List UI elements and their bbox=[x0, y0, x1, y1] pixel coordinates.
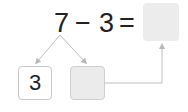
minus-operator: − bbox=[75, 8, 91, 38]
known-part-box: 3 bbox=[18, 66, 52, 100]
subtrahend: 3 bbox=[99, 8, 114, 38]
minuend: 7 bbox=[54, 8, 69, 38]
result-answer-box[interactable] bbox=[143, 3, 179, 41]
unknown-part-box[interactable] bbox=[70, 66, 105, 100]
equals-sign: = bbox=[119, 8, 135, 38]
